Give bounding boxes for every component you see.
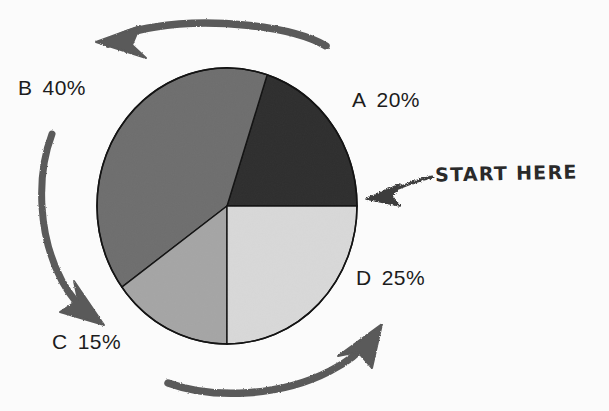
pie-label-c-value: 15% [78,330,122,353]
pie-label-d: D25% [356,266,425,290]
pie-label-a: A20% [352,88,420,112]
pie-label-d-value: 25% [382,266,426,289]
figure-canvas: B40% A20% D25% C15% START HERE [0,0,609,411]
pie-label-c-key: C [52,330,68,353]
pie-label-d-key: D [356,266,372,289]
cycle-arrow-top [96,23,326,58]
start-here-arrow-icon [366,177,432,206]
pie-slice-d [227,206,357,344]
pie-label-a-key: A [352,88,367,111]
cycle-arrow-left [42,134,104,325]
pie-label-b-key: B [18,76,33,99]
pie-label-b: B40% [18,76,86,100]
start-here-label: START HERE [435,161,578,186]
pie-label-b-value: 40% [43,76,87,99]
pie-label-c: C15% [52,330,121,354]
pie-label-a-value: 20% [377,88,421,111]
